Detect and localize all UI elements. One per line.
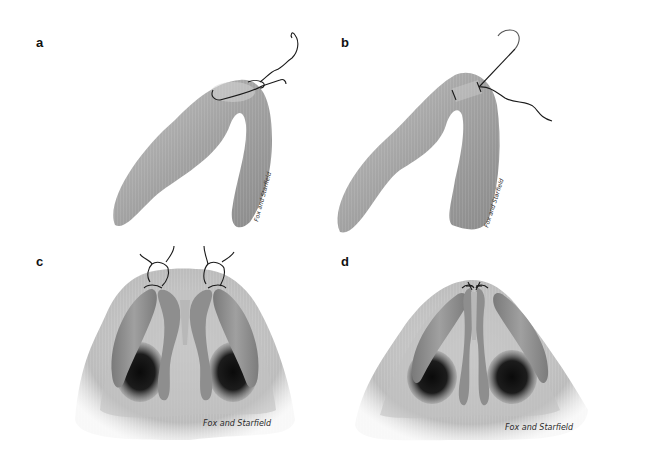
panel-label-b: b — [341, 35, 349, 50]
panel-a: Fox and Starfield — [113, 33, 298, 227]
panel-c: Fox and Starfield — [75, 246, 295, 440]
figure-canvas: Fox and Starfield Fox and Starfield — [0, 0, 649, 470]
panel-d: Fox and Starfield — [355, 280, 588, 440]
nasal-base-c — [75, 269, 295, 441]
panel-label-a: a — [36, 35, 43, 50]
artist-signature-d: Fox and Starfield — [505, 423, 574, 432]
artist-signature-c: Fox and Starfield — [203, 419, 272, 428]
lateral-crus-cartilage-a — [113, 80, 272, 227]
panel-label-c: c — [36, 254, 43, 269]
lateral-crus-cartilage-b — [338, 73, 500, 233]
panel-b: Fox and Starfield — [338, 30, 552, 232]
panel-label-d: d — [341, 254, 349, 269]
